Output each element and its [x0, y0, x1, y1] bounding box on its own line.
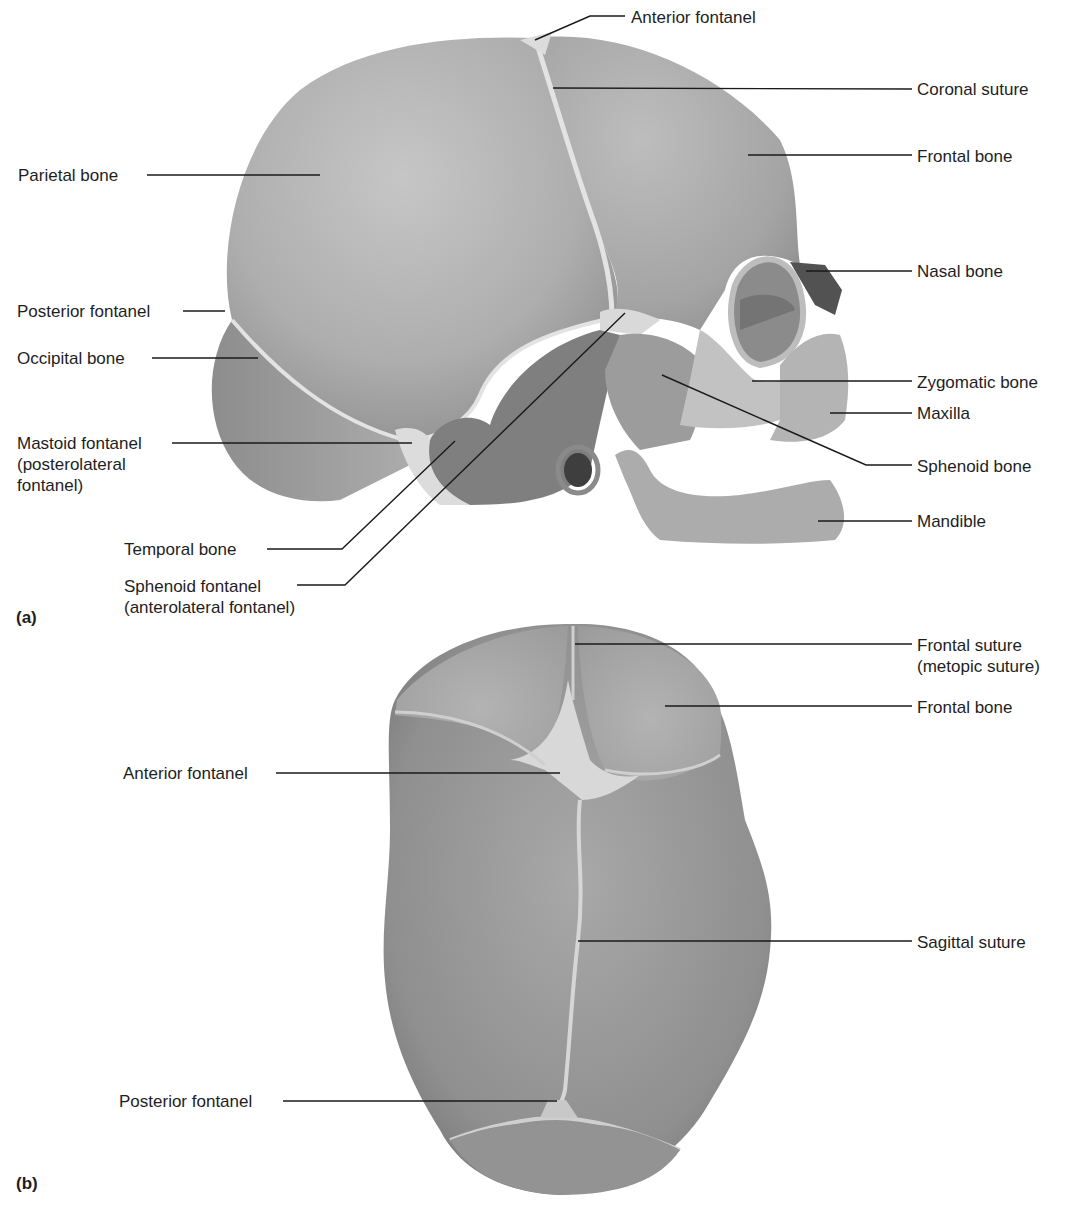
label-sagittal-suture: Sagittal suture — [917, 932, 1026, 953]
mandible-shape — [615, 450, 844, 544]
label-mastoid-fontanel-line3: fontanel) — [17, 475, 142, 496]
panel-letter-a: (a) — [16, 608, 37, 628]
label-mastoid-fontanel-line1: Mastoid fontanel — [17, 433, 142, 454]
label-anterior-fontanel-b: Anterior fontanel — [123, 763, 248, 784]
label-posterior-fontanel-b: Posterior fontanel — [119, 1091, 252, 1112]
label-sphenoid-fontanel-line1: Sphenoid fontanel — [124, 576, 295, 597]
label-anterior-fontanel-a: Anterior fontanel — [631, 7, 756, 28]
leader-coronal-suture — [553, 88, 912, 89]
label-mastoid-fontanel: Mastoid fontanel (posterolateral fontane… — [17, 433, 142, 496]
label-zygomatic-bone: Zygomatic bone — [917, 372, 1038, 393]
panel-letter-b: (b) — [16, 1174, 38, 1194]
frontal-bone-right — [578, 626, 721, 781]
label-posterior-fontanel-a: Posterior fontanel — [17, 301, 150, 322]
label-temporal-bone: Temporal bone — [124, 539, 236, 560]
label-mandible: Mandible — [917, 511, 986, 532]
label-parietal-bone: Parietal bone — [18, 165, 118, 186]
label-occipital-bone: Occipital bone — [17, 348, 125, 369]
label-maxilla: Maxilla — [917, 403, 970, 424]
lateral-skull — [212, 32, 849, 544]
label-sphenoid-fontanel: Sphenoid fontanel (anterolateral fontane… — [124, 576, 295, 618]
label-frontal-suture-line2: (metopic suture) — [917, 656, 1040, 677]
label-frontal-bone-a: Frontal bone — [917, 146, 1012, 167]
label-sphenoid-bone: Sphenoid bone — [917, 456, 1031, 477]
label-mastoid-fontanel-line2: (posterolateral — [17, 454, 142, 475]
label-nasal-bone: Nasal bone — [917, 261, 1003, 282]
ear-opening — [564, 453, 592, 487]
infant-skull-figure: Anterior fontanel Coronal suture Parieta… — [0, 0, 1073, 1224]
superior-skull — [384, 624, 772, 1195]
label-frontal-suture: Frontal suture (metopic suture) — [917, 635, 1040, 677]
label-frontal-suture-line1: Frontal suture — [917, 635, 1040, 656]
label-sphenoid-fontanel-line2: (anterolateral fontanel) — [124, 597, 295, 618]
label-coronal-suture: Coronal suture — [917, 79, 1029, 100]
label-frontal-bone-b: Frontal bone — [917, 697, 1012, 718]
